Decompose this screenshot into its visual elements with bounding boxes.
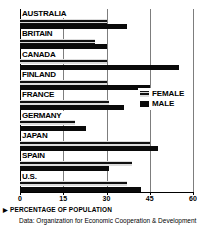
category-label: AUSTRALIA (22, 9, 68, 18)
bar-row: SPAIN (20, 151, 193, 171)
x-tick-label-15: 15 (59, 195, 67, 202)
category-label: JAPAN (22, 131, 50, 140)
bar-male (20, 65, 179, 70)
legend-swatch-female-icon (140, 91, 149, 97)
x-tick-label-60: 60 (189, 195, 197, 202)
category-label: GERMANY (22, 111, 64, 120)
bar-row: U.S. (20, 172, 193, 192)
bar-male (20, 146, 158, 151)
bar-male (20, 44, 107, 49)
bar-row: JAPAN (20, 131, 193, 151)
bar-female (20, 181, 127, 186)
category-label: U.S. (22, 172, 39, 181)
bar-row: AUSTRALIA (20, 9, 193, 29)
bar-row: CANADA (20, 50, 193, 70)
x-tick-label-30: 30 (103, 195, 111, 202)
triangle-right-icon: ▶ (3, 207, 8, 213)
bar-male (20, 166, 109, 171)
bar-row: BRITAIN (20, 29, 193, 49)
category-label: FINLAND (22, 70, 58, 79)
category-label: BRITAIN (22, 29, 54, 38)
legend-swatch-male-icon (140, 101, 149, 107)
category-label: SPAIN (22, 151, 47, 160)
bar-female (20, 161, 132, 166)
x-axis-label-text: PERCENTAGE OF POPULATION (10, 206, 112, 213)
bar-male (20, 126, 86, 131)
gridline-60 (193, 9, 194, 192)
x-tick-label-0: 0 (18, 195, 22, 202)
category-label: CANADA (22, 50, 57, 59)
legend-item-male: MALE (140, 99, 184, 108)
bar-chart: AUSTRALIABRITAINCANADAFINLANDFRANCEGERMA… (0, 0, 198, 230)
bar-male (20, 105, 124, 110)
bar-female (20, 100, 109, 105)
legend-item-female: FEMALE (140, 89, 184, 98)
legend-label-female: FEMALE (152, 89, 184, 98)
category-label: FRANCE (22, 90, 56, 99)
bar-male (20, 85, 150, 90)
bar-female (20, 120, 75, 125)
bar-male (20, 187, 141, 192)
bar-row: GERMANY (20, 111, 193, 131)
source-note: Data: Organization for Economic Cooperat… (19, 217, 196, 224)
bar-female (20, 141, 150, 146)
bar-female (20, 39, 95, 44)
legend-label-male: MALE (152, 99, 174, 108)
legend: FEMALE MALE (138, 88, 186, 110)
bar-male (20, 24, 127, 29)
chart-title (0, 0, 198, 7)
bar-female (20, 59, 107, 64)
bar-female (20, 80, 107, 85)
bar-female (20, 19, 107, 24)
x-axis-label: ▶ PERCENTAGE OF POPULATION (3, 206, 112, 213)
x-tick-label-45: 45 (146, 195, 154, 202)
